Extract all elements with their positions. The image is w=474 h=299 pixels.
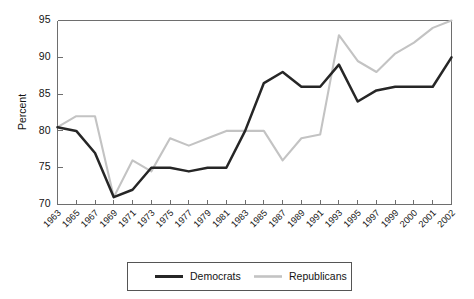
x-tick-label: 1985 — [248, 208, 270, 230]
x-tick-label: 1975 — [154, 208, 176, 230]
y-tick-label: 95 — [39, 13, 51, 25]
x-tick-label: 2000 — [398, 208, 420, 230]
y-axis-title-text: Percent — [16, 94, 28, 130]
x-tick-label: 1999 — [379, 208, 401, 230]
x-tick-label: 1967 — [79, 208, 101, 230]
x-tick-label: 1981 — [210, 208, 232, 230]
y-axis-ticks: 707580859095 — [39, 13, 63, 209]
legend-label-democrats: Democrats — [190, 270, 241, 282]
x-tick-label: 2001 — [417, 208, 439, 230]
legend-label-republicans: Republicans — [289, 270, 347, 282]
x-tick-label: 1977 — [173, 208, 195, 230]
y-axis-title: Percent — [16, 94, 28, 130]
plot-frame — [58, 21, 452, 205]
x-tick-label: 1995 — [342, 208, 364, 230]
x-tick-label: 1987 — [267, 208, 289, 230]
x-tick-label: 1973 — [135, 208, 157, 230]
x-tick-label: 1979 — [191, 208, 213, 230]
y-tick-label: 90 — [39, 50, 51, 62]
x-tick-label: 1963 — [41, 208, 63, 230]
chart-legend: Democrats Republicans — [128, 263, 352, 291]
data-series-group — [58, 21, 452, 198]
x-tick-label: 1983 — [229, 208, 251, 230]
x-tick-label: 1971 — [116, 208, 138, 230]
series-line-democrats — [58, 57, 452, 197]
x-tick-label: 1991 — [304, 208, 326, 230]
x-tick-label: 2002 — [435, 208, 457, 230]
x-tick-label: 1969 — [98, 208, 120, 230]
y-tick-label: 80 — [39, 124, 51, 136]
plot-border — [58, 21, 452, 205]
x-tick-label: 1989 — [285, 208, 307, 230]
y-tick-label: 75 — [39, 160, 51, 172]
line-chart: Percent 707580859095 1963196519671969197… — [0, 0, 474, 299]
chart-container: Percent 707580859095 1963196519671969197… — [0, 0, 474, 299]
x-tick-label: 1997 — [360, 208, 382, 230]
y-tick-label: 85 — [39, 87, 51, 99]
x-tick-label: 1965 — [60, 208, 82, 230]
x-tick-label: 1993 — [323, 208, 345, 230]
y-tick-label: 70 — [39, 197, 51, 209]
